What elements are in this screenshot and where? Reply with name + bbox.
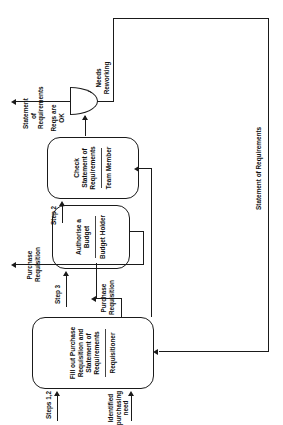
flow-step3-line: [66, 275, 67, 307]
flow-step3-arrowhead: [63, 271, 69, 276]
flowchart-canvas: Fill out Purchase Requisition and Statem…: [0, 0, 283, 425]
flow-loop-down: [113, 18, 269, 19]
flow-loop-return-up: [159, 351, 269, 352]
flow-pr-out-arrowhead: [11, 262, 16, 268]
flow-pr-out-drop: [130, 231, 144, 232]
flow-needs-rework-vertical: [97, 101, 114, 102]
process-node-authorise-budget-divider: [95, 216, 96, 258]
process-node-check-statement[interactable]: Check Statement of Requirements Team Mem…: [47, 137, 139, 199]
flow-label-steps-1-2: Steps 1,2: [45, 391, 53, 419]
process-node-authorise-budget-task: Authorise a Budget: [75, 210, 91, 264]
flow-label-step-3: Step 3: [54, 285, 62, 304]
flow-fill-to-check-horizontal: [151, 168, 152, 317]
process-node-fill-out-divider: [105, 329, 106, 377]
flow-steps12-arrowhead: [54, 391, 60, 396]
flow-fill-to-check-arrowhead: [134, 166, 139, 172]
flow-reqs-ok-arrowhead: [11, 99, 16, 105]
process-node-fill-out[interactable]: Fill out Purchase Requisition and Statem…: [32, 317, 154, 389]
flow-identified-need-line: [131, 395, 132, 421]
diagram-rotator: Fill out Purchase Requisition and Statem…: [0, 0, 283, 425]
flow-pr-in-arrowhead: [91, 296, 96, 302]
flow-pr-in-segment-horizontal-b: [96, 263, 97, 299]
flow-steps12-line: [57, 395, 58, 421]
process-node-check-statement-divider: [101, 148, 102, 189]
flow-label-reqs-are-ok: Reqs are OK: [50, 103, 65, 133]
decision-gateway[interactable]: [70, 87, 98, 115]
flow-step2-line: [62, 205, 63, 223]
flow-step2-arrowhead: [59, 201, 65, 206]
flow-label-statement-of-requirements-out: Statement of Requirements: [22, 103, 45, 129]
flow-check-to-gateway-arrowhead: [82, 115, 88, 120]
flow-label-statement-of-requirements-loop: Statement of Requirements: [255, 127, 263, 210]
flow-label-purchase-requisition-out: Purchase Requisition: [26, 248, 41, 282]
flow-loop-return-arrowhead: [153, 349, 158, 355]
flow-label-step-2: Step 2: [50, 206, 58, 225]
process-node-authorise-budget[interactable]: Authorise a Budget Budget Holder: [52, 205, 130, 269]
flow-label-identified-need: Identified purchasing need: [107, 390, 130, 425]
process-node-fill-out-role: Requisitioner: [109, 333, 117, 374]
process-node-fill-out-task: Fill out Purchase Requisition and Statem…: [69, 322, 101, 384]
process-node-authorise-budget-role: Budget Holder: [99, 215, 107, 259]
flow-loop-return-horizontal: [268, 18, 269, 352]
process-node-check-statement-role: Team Member: [105, 147, 113, 190]
flow-label-purchase-requisition-in: Purchase Requisition: [100, 281, 115, 315]
flow-pr-out-run: [143, 231, 144, 265]
process-node-check-statement-task: Check Statement of Requirements: [73, 142, 97, 194]
flow-fill-to-check-vertical: [139, 168, 152, 169]
flow-label-needs-reworking: Needs Reworking: [95, 61, 110, 95]
flow-needs-rework-horizontal: [113, 18, 114, 102]
flow-pr-in-segment-horizontal-a: [121, 298, 122, 317]
